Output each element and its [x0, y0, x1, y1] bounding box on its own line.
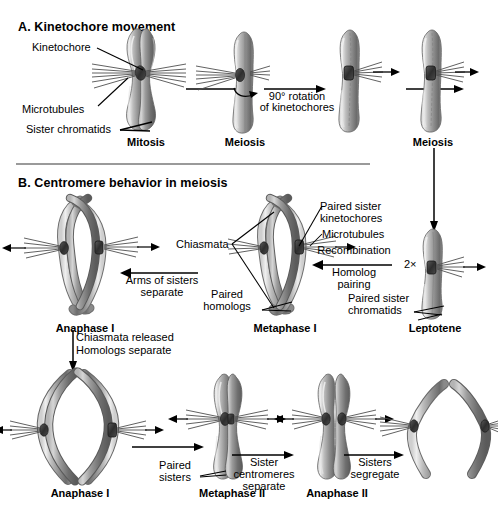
label-kinetochore: Kinetochore	[32, 41, 91, 54]
chromosome-segregated-pair	[398, 376, 498, 488]
arrow-a-2-label-line2: of kinetochores	[258, 101, 336, 114]
label-paired-sisters-line2: sisters	[150, 471, 200, 484]
stage-label-anaphase-1-bottom: Anaphase I	[22, 487, 138, 499]
stage-label-leptotene: Leptotene	[404, 322, 466, 334]
stage-label-metaphase-1: Metaphase I	[238, 322, 332, 334]
stage-label-meiosis-3: Meiosis	[405, 136, 461, 148]
label-sister-chromatids: Sister chromatids	[26, 123, 111, 136]
chromosome-meiosis-1	[222, 30, 268, 138]
arrow-b-recombination-line2: Homolog	[306, 266, 402, 279]
chromosome-meiosis-2	[328, 28, 374, 138]
arrow-b-chiasmata-released-line2: Homologs separate	[76, 344, 171, 357]
label-paired-homologs-line2: homologs	[190, 300, 264, 313]
arrow-b-recombination-line1: Recombination	[306, 244, 402, 257]
stage-label-anaphase-2: Anaphase II	[292, 487, 382, 499]
chromosome-meiosis-3	[410, 28, 456, 138]
label-paired-sister-kinetochores-line2: kinetochores	[320, 212, 382, 225]
arrow-b-sister-centromeres-line2: centromeres	[222, 468, 306, 481]
label-paired-sister-chromatids-line2: chromatids	[348, 304, 402, 317]
label-microtubules: Microtubules	[22, 103, 84, 116]
chromosome-mitosis	[110, 26, 182, 138]
arrow-b-chiasmata-released-line1: Chiasmata released	[76, 331, 174, 344]
label-paired-sister-kinetochores-line1: Paired sister	[320, 200, 381, 213]
arrow-b-sister-centromeres-line1: Sister	[228, 456, 300, 469]
chromosome-anaphase-1-top	[40, 192, 132, 320]
arrow-b-arms-label-line1: Arms of sisters	[114, 274, 210, 287]
arrow-meiosis-to-leptotene	[426, 148, 442, 234]
arrow-b-recombination-line3: pairing	[306, 278, 402, 291]
label-microtubules-b: Microtubules	[322, 228, 384, 241]
chromosome-anaphase-1-bottom	[22, 368, 138, 488]
label-chiasmata: Chiasmata	[176, 238, 229, 251]
stage-label-mitosis: Mitosis	[110, 136, 182, 148]
panel-divider	[16, 163, 370, 165]
label-paired-sisters-line1: Paired	[150, 459, 200, 472]
arrow-b-sister-centromeres-line3: separate	[228, 480, 300, 493]
label-paired-homologs-line1: Paired	[196, 288, 258, 301]
arrow-b-to-metaphase-2	[132, 440, 206, 454]
stage-label-meiosis-1: Meiosis	[218, 136, 272, 148]
chromosome-leptotene	[412, 228, 456, 324]
label-paired-sister-chromatids-line1: Paired sister	[348, 292, 409, 305]
panel-b-title: B. Centromere behavior in meiosis	[18, 176, 228, 190]
